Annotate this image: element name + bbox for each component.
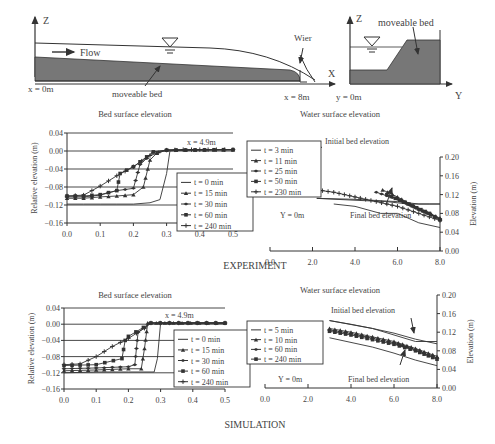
section-experiment: EXPERIMENT — [223, 260, 286, 271]
legend: t = 0 mint = 15 mint = 30 mint = 60 mint… — [177, 173, 253, 231]
svg-text:4.0: 4.0 — [346, 395, 356, 404]
section-simulation: SIMULATION — [224, 419, 285, 430]
svg-text:0.3: 0.3 — [162, 230, 172, 239]
chart-title: Bed surface elevation — [98, 290, 172, 300]
svg-text:0.04: 0.04 — [445, 228, 459, 237]
sim-bed-chart: Bed surface elevation0.040.00−0.04−0.08−… — [27, 290, 250, 405]
svg-text:0.5: 0.5 — [220, 396, 230, 405]
svg-text:6.0: 6.0 — [393, 258, 403, 267]
bed-label-2: moveable bed — [378, 17, 434, 28]
svg-text:−0.16: −0.16 — [44, 219, 63, 228]
svg-text:−0.16: −0.16 — [41, 385, 60, 394]
legend-entry: t = 15 min — [194, 189, 227, 198]
x0-label: x = 0m — [28, 84, 54, 94]
legend: t = 5 mint = 10 mint = 60 mint = 240 min — [247, 321, 323, 364]
svg-text:0.00: 0.00 — [442, 384, 456, 393]
legend-entry: t = 240 min — [264, 355, 301, 364]
svg-text:0.1: 0.1 — [95, 230, 105, 239]
svg-text:−0.08: −0.08 — [44, 183, 63, 192]
exp-bed-chart: Bed surface elevation0.040.00−0.04−0.08−… — [30, 109, 253, 239]
svg-text:0.2: 0.2 — [128, 230, 138, 239]
schematic-longitudinal: Z X Flow moveable bed x = 0m Wier x = 8m — [28, 15, 336, 102]
svg-text:0.04: 0.04 — [49, 129, 63, 138]
sim-water-chart: Water surface elevation0.200.160.120.080… — [247, 285, 475, 404]
svg-text:0.20: 0.20 — [445, 153, 459, 162]
svg-text:−0.12: −0.12 — [41, 369, 60, 378]
svg-text:−0.12: −0.12 — [44, 201, 63, 210]
y0-label: y = 0m — [336, 92, 362, 102]
svg-text:0.08: 0.08 — [445, 209, 459, 218]
y-axis-label: Relative elevation (m) — [30, 142, 39, 214]
flow-label: Flow — [80, 47, 101, 58]
svg-text:0.16: 0.16 — [445, 172, 459, 181]
svg-text:2.0: 2.0 — [303, 395, 313, 404]
svg-text:0.0: 0.0 — [260, 395, 270, 404]
svg-text:−0.08: −0.08 — [41, 353, 60, 362]
svg-text:2.0: 2.0 — [308, 258, 318, 267]
svg-text:0.16: 0.16 — [442, 310, 456, 319]
svg-text:0.0: 0.0 — [59, 396, 69, 405]
svg-text:Initial bed elevation: Initial bed elevation — [331, 306, 395, 315]
legend-entry: t = 30 min — [191, 357, 224, 366]
svg-text:0.0: 0.0 — [62, 230, 72, 239]
legend-entry: t = 60 min — [264, 345, 297, 354]
y-axis-label: Elevation (m) — [469, 182, 478, 227]
svg-text:0.1: 0.1 — [91, 396, 101, 405]
legend-entry: t = 10 min — [264, 336, 297, 345]
axis-x-label: X — [328, 68, 336, 79]
svg-text:0.00: 0.00 — [49, 147, 63, 156]
svg-text:4.0: 4.0 — [350, 258, 360, 267]
svg-text:Y = 0m: Y = 0m — [278, 375, 303, 384]
legend-entry: t = 3 min — [264, 146, 293, 155]
axis-z-label-2: Z — [356, 13, 362, 24]
exp-water-chart: Water surface elevation0.200.160.120.080… — [247, 109, 478, 267]
svg-text:0.08: 0.08 — [442, 347, 456, 356]
legend-entry: t = 0 min — [191, 335, 220, 344]
chart-title: Bed surface elevation — [98, 109, 172, 119]
legend-entry: t = 230 min — [264, 188, 301, 197]
chart-title: Water surface elevation — [300, 285, 381, 295]
legend-entry: t = 50 min — [264, 177, 297, 186]
y-axis-label: Relative elevation (m) — [27, 312, 36, 384]
legend-entry: t = 25 min — [264, 167, 297, 176]
axis-y-label: Y — [455, 90, 462, 101]
svg-text:Initial bed elevation: Initial bed elevation — [325, 137, 389, 146]
legend: t = 3 mint = 11 mint = 25 mint = 50 mint… — [247, 141, 321, 197]
svg-text:0.12: 0.12 — [442, 328, 456, 337]
svg-text:0.00: 0.00 — [445, 247, 459, 256]
svg-text:0.20: 0.20 — [442, 291, 456, 300]
legend-entry: t = 11 min — [264, 157, 297, 166]
svg-text:x = 4.9m: x = 4.9m — [165, 311, 195, 320]
axis-z-label: Z — [43, 15, 49, 26]
svg-text:8.0: 8.0 — [435, 258, 445, 267]
svg-text:6.0: 6.0 — [389, 395, 399, 404]
chart-title: Water surface elevation — [300, 109, 381, 119]
legend-entry: t = 0 min — [194, 178, 223, 187]
svg-text:0.04: 0.04 — [46, 304, 60, 313]
x8-label: x = 8m — [284, 92, 310, 102]
svg-text:Final bed elevation: Final bed elevation — [348, 375, 409, 384]
svg-text:−0.04: −0.04 — [41, 336, 60, 345]
svg-text:0.4: 0.4 — [188, 396, 198, 405]
svg-text:Y = 0m: Y = 0m — [280, 211, 305, 220]
legend-entry: t = 240 min — [194, 222, 231, 231]
svg-text:0.3: 0.3 — [156, 396, 166, 405]
svg-text:0.00: 0.00 — [46, 320, 60, 329]
svg-text:0.2: 0.2 — [123, 396, 133, 405]
legend-entry: t = 240 min — [191, 378, 228, 387]
legend-entry: t = 60 min — [191, 367, 224, 376]
svg-text:8.0: 8.0 — [432, 395, 442, 404]
legend: t = 0 mint = 15 mint = 30 mint = 60 mint… — [174, 330, 250, 387]
bed-label: moveable bed — [112, 89, 163, 99]
legend-entry: t = 15 min — [191, 346, 224, 355]
legend-entry: t = 30 min — [194, 200, 227, 209]
svg-text:0.12: 0.12 — [445, 191, 459, 200]
schematic-cross-section: Z Y moveable bed y = 0m — [336, 13, 462, 102]
svg-text:x = 4.9m: x = 4.9m — [187, 138, 217, 147]
legend-entry: t = 60 min — [194, 211, 227, 220]
wier-label: Wier — [294, 33, 312, 43]
y-axis-label: Elevation (m) — [466, 319, 475, 364]
svg-text:0.04: 0.04 — [442, 365, 456, 374]
svg-text:−0.04: −0.04 — [44, 165, 63, 174]
series-line — [317, 198, 440, 204]
